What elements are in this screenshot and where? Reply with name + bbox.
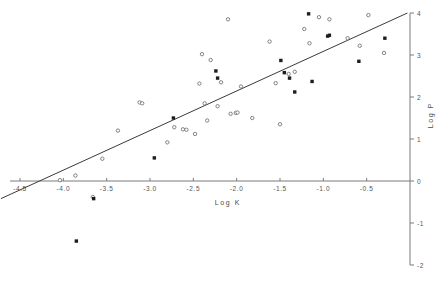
data-point-filled: [153, 156, 156, 159]
data-point-filled: [328, 34, 331, 37]
data-point-filled: [310, 80, 313, 83]
data-point-filled: [283, 71, 286, 74]
data-point-open: [101, 157, 104, 160]
data-point-open: [203, 102, 206, 105]
data-point-open: [287, 72, 290, 75]
data-point-open: [116, 129, 119, 132]
fit-line: [1, 13, 407, 199]
x-axis-title: Log K: [215, 199, 241, 207]
data-point-open: [226, 18, 229, 21]
scatter-chart-figure: -4.5-4.0-3.5-3.0-2.5-2.0-1.5-1.0-0.5 -2-…: [0, 0, 445, 287]
data-point-open: [303, 27, 306, 30]
data-point-filled: [293, 90, 296, 93]
data-point-open: [382, 51, 385, 54]
data-points: [58, 12, 386, 243]
data-point-open: [239, 85, 242, 88]
data-point-open: [358, 44, 361, 47]
series-0: [58, 13, 386, 198]
data-point-filled: [172, 116, 175, 119]
data-point-open: [198, 82, 201, 85]
data-point-open: [317, 16, 320, 19]
data-point-open: [166, 141, 169, 144]
data-point-open: [293, 70, 296, 73]
data-point-filled: [383, 37, 386, 40]
data-point-filled: [279, 59, 282, 62]
y-tick-label: 4: [417, 10, 421, 17]
data-point-open: [185, 128, 188, 131]
data-point-filled: [75, 239, 78, 242]
x-tick-label: -4.5: [13, 185, 27, 192]
data-point-open: [193, 132, 196, 135]
x-tick-label: -3.5: [100, 185, 114, 192]
x-tick-label: -4.0: [57, 185, 71, 192]
data-point-filled: [288, 76, 291, 79]
y-tick-label: -2: [417, 262, 424, 269]
data-point-open: [58, 178, 61, 181]
data-point-open: [173, 126, 176, 129]
x-tick-label: -3.0: [143, 185, 157, 192]
y-tick-label: 3: [417, 52, 421, 59]
data-point-filled: [92, 197, 95, 200]
regression-line: [1, 13, 407, 199]
x-tick-label: -2.5: [187, 185, 201, 192]
y-axis: -2-101234: [410, 10, 424, 269]
data-point-open: [216, 105, 219, 108]
y-tick-label: -1: [417, 220, 424, 227]
x-axis: -4.5-4.0-3.5-3.0-2.5-2.0-1.5-1.0-0.5: [10, 178, 410, 192]
data-point-open: [274, 81, 277, 84]
y-tick-label: 1: [417, 136, 421, 143]
data-point-open: [367, 13, 370, 16]
y-tick-label: 2: [417, 94, 421, 101]
x-tick-label: -1.5: [273, 185, 287, 192]
data-point-open: [229, 112, 232, 115]
data-point-open: [74, 174, 77, 177]
y-tick-label: 0: [417, 178, 421, 185]
x-tick-label: -0.5: [360, 185, 374, 192]
data-point-open: [308, 42, 311, 45]
x-tick-label: -2.0: [230, 185, 244, 192]
data-point-open: [206, 119, 209, 122]
data-point-open: [328, 18, 331, 21]
data-point-open: [181, 128, 184, 131]
data-point-open: [278, 123, 281, 126]
series-1: [75, 12, 387, 243]
x-tick-label: -1.0: [317, 185, 331, 192]
data-point-open: [236, 111, 239, 114]
data-point-open: [346, 37, 349, 40]
data-point-open: [268, 40, 271, 43]
data-point-filled: [216, 76, 219, 79]
data-point-open: [209, 58, 212, 61]
data-point-open: [251, 116, 254, 119]
data-point-filled: [357, 60, 360, 63]
plot-canvas: -4.5-4.0-3.5-3.0-2.5-2.0-1.5-1.0-0.5 -2-…: [0, 0, 445, 287]
y-axis-title: Log P: [427, 102, 435, 128]
data-point-filled: [307, 12, 310, 15]
data-point-open: [219, 81, 222, 84]
data-point-open: [141, 102, 144, 105]
data-point-open: [200, 52, 203, 55]
data-point-filled: [214, 69, 217, 72]
